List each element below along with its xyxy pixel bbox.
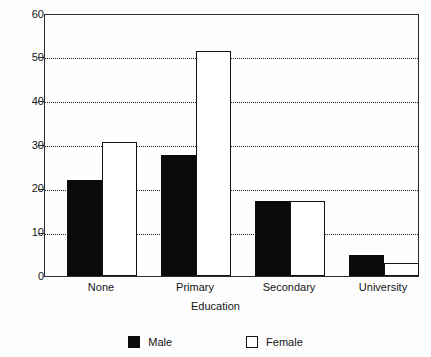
legend-label-female: Female — [266, 336, 303, 348]
y-tick-label: 0 — [10, 271, 44, 282]
y-tick-label: 60 — [10, 9, 44, 20]
plot-inner — [45, 15, 418, 276]
x-category-label-secondary: Secondary — [263, 281, 316, 293]
legend-label-male: Male — [148, 336, 172, 348]
bar-chart: 60 50 40 30 20 10 0 — [0, 0, 431, 357]
x-axis-title: Education — [0, 300, 431, 312]
legend-item-male: Male — [128, 336, 172, 348]
x-category-label-primary: Primary — [176, 281, 214, 293]
bar-none-female — [102, 142, 137, 276]
gridline-40 — [45, 102, 418, 103]
gridline-50 — [45, 58, 418, 59]
hollow-square-icon — [246, 336, 258, 348]
x-category-label-none: None — [88, 281, 114, 293]
bar-secondary-male — [255, 201, 290, 276]
gridline-30 — [45, 146, 418, 147]
bar-primary-female — [196, 51, 231, 276]
filled-square-icon — [128, 336, 140, 348]
plot-area — [44, 14, 419, 277]
chart-legend: Male Female — [0, 333, 431, 351]
bar-primary-male — [161, 155, 196, 276]
legend-item-female: Female — [246, 336, 303, 348]
bar-university-female — [384, 263, 419, 276]
bar-none-male — [67, 180, 102, 276]
x-category-label-university: University — [359, 281, 407, 293]
bar-secondary-female — [290, 201, 325, 276]
bar-university-male — [349, 255, 384, 276]
